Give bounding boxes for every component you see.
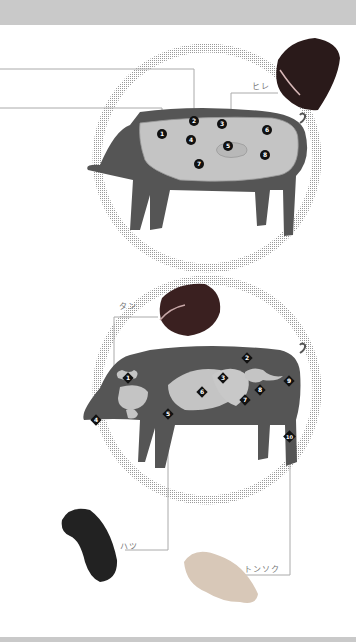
hatsu-heart-image xyxy=(62,509,117,582)
svg-text:1: 1 xyxy=(160,130,164,137)
hire-fillet-image xyxy=(276,38,340,110)
svg-text:3: 3 xyxy=(220,120,224,127)
label-hatsu: ハツ xyxy=(120,540,138,551)
svg-text:7: 7 xyxy=(243,396,247,403)
svg-text:4: 4 xyxy=(94,416,98,423)
footer-bar xyxy=(0,637,356,642)
pig-meat-cuts: 1 2 3 4 5 6 7 8 xyxy=(87,108,307,236)
pork-diagram: 1 2 3 4 5 6 7 8 1 2 3 4 5 xyxy=(0,0,356,642)
svg-text:2: 2 xyxy=(245,354,249,361)
svg-text:8: 8 xyxy=(263,151,267,158)
svg-text:10: 10 xyxy=(286,434,293,440)
svg-text:9: 9 xyxy=(287,377,291,384)
tonsoku-trotter-image xyxy=(184,552,258,603)
svg-text:5: 5 xyxy=(166,410,170,417)
svg-text:2: 2 xyxy=(192,117,196,124)
label-tonsoku: トンソク xyxy=(244,563,280,574)
label-tan: タン xyxy=(119,300,137,311)
svg-text:7: 7 xyxy=(197,160,201,167)
label-hire: ヒレ xyxy=(252,80,270,91)
svg-text:1: 1 xyxy=(126,374,130,381)
svg-text:6: 6 xyxy=(265,126,269,133)
svg-text:6: 6 xyxy=(200,388,204,395)
svg-text:8: 8 xyxy=(258,386,262,393)
svg-text:3: 3 xyxy=(221,374,225,381)
svg-text:4: 4 xyxy=(189,136,193,143)
svg-text:5: 5 xyxy=(226,142,230,149)
